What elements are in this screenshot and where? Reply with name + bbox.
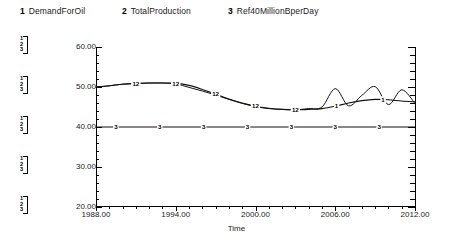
series-marker-12: 12 bbox=[252, 102, 259, 109]
series-marker-3: 3 bbox=[202, 123, 206, 130]
series-marker-1: 1 bbox=[381, 96, 385, 103]
legend-label-3: Ref40MillionBperDay bbox=[237, 6, 319, 16]
y-scale-brace-numbers: 123 bbox=[14, 76, 23, 93]
x-axis-tick-label: 2006.00 bbox=[307, 210, 363, 219]
y-axis-tick-label: 50.00 bbox=[50, 82, 96, 91]
legend-entry-totalproduction[interactable]: 2 TotalProduction bbox=[122, 6, 191, 16]
series-marker-1: 1 bbox=[335, 102, 339, 109]
legend-number-1: 1 bbox=[20, 6, 25, 16]
series-marker-3: 3 bbox=[290, 123, 294, 130]
chart-window: 1 DemandForOil 2 TotalProduction 3 Ref40… bbox=[0, 0, 449, 243]
series-marker-3: 3 bbox=[114, 123, 118, 130]
series-marker-12: 12 bbox=[292, 106, 299, 113]
y-axis-tick-right bbox=[408, 207, 415, 208]
x-axis-title: Time bbox=[0, 224, 449, 233]
x-axis-tick-label: 1988.00 bbox=[68, 210, 124, 219]
y-axis-tick-label: 60.00 bbox=[50, 42, 96, 51]
series-marker-3: 3 bbox=[377, 123, 381, 130]
x-axis-tick-label: 1994.00 bbox=[148, 210, 204, 219]
series-marker-12: 12 bbox=[172, 80, 179, 87]
x-axis-tick-labels: 1988.001994.002000.002006.002012.00 bbox=[0, 210, 449, 224]
y-scale-brace-numbers: 123 bbox=[14, 116, 23, 133]
series-marker-12: 12 bbox=[132, 80, 139, 87]
series-marker-12: 12 bbox=[212, 90, 219, 97]
y-scale-brace-numbers: 123 bbox=[14, 156, 23, 173]
y-axis-tick-labels: 60.0050.0040.0030.0020.00 bbox=[48, 0, 96, 243]
y-axis-tick-label: 30.00 bbox=[50, 162, 96, 171]
y-scale-brace[interactable]: 123 bbox=[14, 116, 38, 133]
series-marker-3: 3 bbox=[158, 123, 162, 130]
y-scale-brace[interactable]: 123 bbox=[14, 76, 38, 93]
series-marker-3: 3 bbox=[334, 123, 338, 130]
x-axis-tick-label: 2000.00 bbox=[228, 210, 284, 219]
legend-number-3: 3 bbox=[228, 6, 233, 16]
series-marker-3: 3 bbox=[246, 123, 250, 130]
y-scale-brace-bracket bbox=[23, 116, 28, 134]
legend-label-2: TotalProduction bbox=[131, 6, 191, 16]
x-axis-tick-label: 2012.00 bbox=[387, 210, 443, 219]
series-markers: 1212121212113333333 bbox=[96, 47, 415, 207]
legend-number-2: 2 bbox=[122, 6, 127, 16]
y-scale-brace-bracket bbox=[23, 36, 28, 54]
legend-entry-ref40millionbperday[interactable]: 3 Ref40MillionBperDay bbox=[228, 6, 318, 16]
y-scale-brace[interactable]: 123 bbox=[14, 156, 38, 173]
y-scale-brace-column[interactable]: 123123123123123 bbox=[14, 36, 40, 216]
y-axis-tick-label: 40.00 bbox=[50, 122, 96, 131]
y-scale-brace-numbers: 123 bbox=[14, 36, 23, 53]
y-scale-brace-bracket bbox=[23, 156, 28, 174]
y-scale-brace[interactable]: 123 bbox=[14, 36, 38, 53]
y-scale-brace-bracket bbox=[23, 76, 28, 94]
plot-area[interactable]: 1212121212113333333 bbox=[96, 47, 415, 207]
x-axis-title-text: Time bbox=[228, 224, 245, 233]
